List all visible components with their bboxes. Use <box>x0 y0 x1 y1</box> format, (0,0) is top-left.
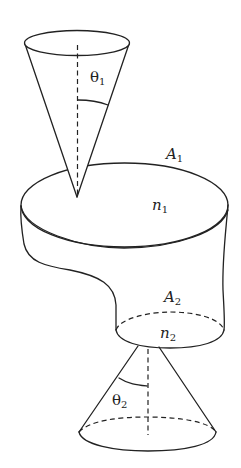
label-n2: n2 <box>160 326 176 343</box>
input-cone <box>25 31 130 198</box>
face-A1 <box>21 163 228 247</box>
label-n1: n1 <box>152 198 168 215</box>
theta2-arc <box>119 378 147 386</box>
label-theta1: θ1 <box>90 70 105 87</box>
label-A1: A1 <box>166 147 183 164</box>
fiber-body <box>21 205 228 330</box>
label-theta2: θ2 <box>112 393 127 410</box>
label-A2: A2 <box>164 290 181 307</box>
output-cone <box>79 346 216 451</box>
